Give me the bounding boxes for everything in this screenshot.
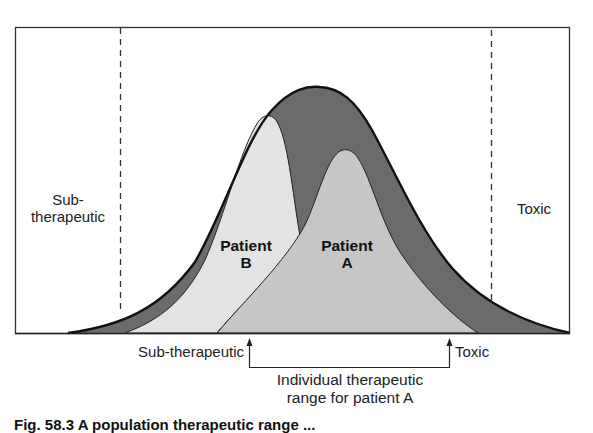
therapeutic-range-bracket: [250, 343, 450, 368]
patient-a-label-line2: A: [314, 254, 380, 271]
toxic-zone-label: Toxic: [508, 200, 560, 217]
individual-range-label-line2: range for patient A: [250, 389, 450, 407]
subtherapeutic-zone-label-line2: therapeutic: [20, 208, 116, 225]
patient-a-label-line1: Patient: [314, 237, 380, 254]
lower-arrow-icon: [247, 338, 253, 346]
individual-range-label-line1: Individual therapeutic: [250, 371, 450, 389]
subtherapeutic-zone-label: Sub- therapeutic: [20, 191, 116, 225]
individual-range-label: Individual therapeutic range for patient…: [250, 371, 450, 407]
patient-b-label-line1: Patient: [213, 237, 279, 254]
subtherapeutic-zone-label-line1: Sub-: [20, 191, 116, 208]
figure-caption: Fig. 58.3 A population therapeutic range…: [14, 416, 315, 433]
patient-b-label-line2: B: [213, 254, 279, 271]
lower-marker-label: Sub-therapeutic: [108, 343, 244, 360]
patient-b-label: Patient B: [213, 237, 279, 271]
upper-arrow-icon: [447, 338, 453, 346]
patient-a-label: Patient A: [314, 237, 380, 271]
upper-marker-label: Toxic: [455, 343, 489, 360]
